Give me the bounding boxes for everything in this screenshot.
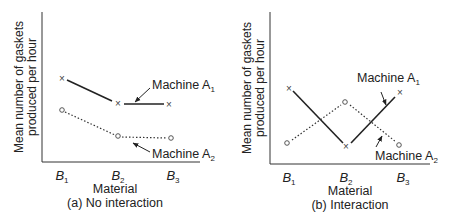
annotation-machine-a2: Machine A2 (133, 143, 215, 163)
panel-a-no-interaction: Mean number of gaskets produced per hour… (12, 12, 215, 210)
circle-marker-icon (116, 134, 121, 139)
x-marker-icon: × (166, 99, 172, 110)
y-axis-label-line1: Mean number of gaskets (240, 22, 254, 154)
svg-text:Machine A1: Machine A1 (152, 78, 215, 94)
x-tick-b3: B3 (396, 170, 410, 187)
annotation-machine-a2: Machine A2 (375, 136, 438, 165)
caption: (a) No interaction (67, 196, 163, 210)
x-marker-icon: × (397, 87, 403, 98)
circle-marker-icon (169, 136, 174, 141)
x-marker-icon: × (286, 83, 292, 94)
series-machine-a2 (60, 108, 174, 141)
panel-b-interaction: Mean number of gaskets produced per hour… (240, 12, 438, 212)
x-marker-icon: × (59, 73, 65, 84)
caption: (b) Interaction (311, 198, 388, 212)
x-axis-label: Material (93, 182, 137, 196)
x-tick-b1: B1 (282, 170, 296, 187)
svg-text:Machine A2: Machine A2 (152, 147, 215, 163)
svg-text:Machine A2: Machine A2 (375, 149, 438, 165)
x-marker-icon: × (343, 141, 349, 152)
y-axis-label-line2: produced per hour (253, 39, 267, 137)
svg-text:Machine A1: Machine A1 (357, 71, 420, 87)
x-tick-b1: B1 (55, 168, 69, 185)
x-axis-label: Material (328, 184, 372, 198)
series-machine-a1: × × × (286, 83, 403, 152)
annotation-machine-a1: Machine A1 (357, 71, 420, 105)
y-axis-label-line2: produced per hour (25, 38, 39, 136)
circle-marker-icon (60, 108, 65, 113)
circle-marker-icon (397, 143, 402, 148)
y-axis-label-line1: Mean number of gaskets (12, 21, 26, 153)
annotation-machine-a1: Machine A1 (135, 78, 215, 102)
x-marker-icon: × (115, 98, 121, 109)
circle-marker-icon (285, 141, 290, 146)
circle-marker-icon (343, 100, 348, 105)
figure: Mean number of gaskets produced per hour… (0, 0, 458, 218)
x-tick-b3: B3 (166, 168, 180, 185)
